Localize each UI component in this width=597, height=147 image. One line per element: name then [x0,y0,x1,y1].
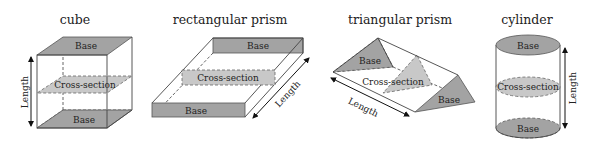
rect-prism-front-base-label: Base [185,106,207,116]
rect-prism-cross-section-label: Cross-section [197,73,259,83]
cube-figure: cube Base Cross-section Base Length [20,12,132,128]
cube-cross-section-label: Cross-section [54,80,116,90]
triangular-prism-title: triangular prism [348,12,452,27]
cylinder-cross-section-label: Cross-section [497,82,559,92]
prism-cross-section-diagram: cube Base Cross-section Base Length rect… [0,0,597,147]
cylinder-title: cylinder [501,12,553,27]
cylinder-top-base-label: Base [517,41,539,51]
tri-prism-back-base-label: Base [359,56,381,66]
cylinder-length-label: Length [568,72,578,104]
tri-prism-back-base [333,38,393,72]
cube-top-base-label: Base [75,41,97,51]
cube-length-label: Length [20,76,30,108]
cube-title: cube [60,12,90,27]
tri-prism-front-base-label: Base [438,95,460,105]
rect-prism-back-base-label: Base [247,41,269,51]
cylinder-bottom-base-label: Base [517,124,539,134]
tri-prism-cross-section-label: Cross-section [362,77,424,87]
rect-prism-length-label: Length [273,79,302,110]
tri-prism-cross-section [383,55,432,93]
rectangular-prism-figure: rectangular prism Base Cross-section Bas… [152,12,309,118]
cube-bottom-base-label: Base [73,115,95,125]
triangular-prism-figure: triangular prism Base Cross-section Base… [331,12,475,119]
cylinder-figure: cylinder Base Cross-section Base Length [496,12,578,138]
rectangular-prism-title: rectangular prism [173,12,288,27]
